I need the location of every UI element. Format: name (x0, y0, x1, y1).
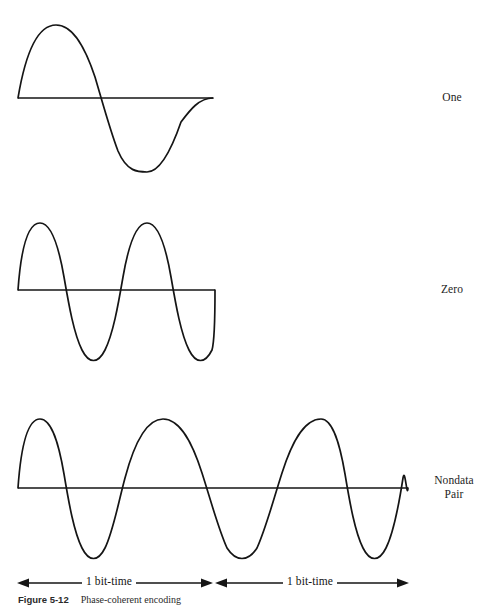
bit-time-axis (17, 579, 409, 588)
arrow-left-2 (215, 579, 227, 588)
waveform-nondata-pair (18, 419, 408, 559)
arrow-right-1 (201, 579, 213, 588)
figure-caption-number: Figure 5-12 (18, 594, 69, 605)
figure-caption-text: Phase-coherent encoding (81, 594, 181, 605)
bit-time-label-1: 1 bit-time (82, 575, 136, 587)
row-label-one: One (424, 91, 480, 105)
arrow-left-1 (17, 579, 29, 588)
wave-curve-zero (18, 223, 215, 361)
arrow-right-2 (397, 579, 409, 588)
waveform-one (18, 25, 213, 172)
waveform-canvas (0, 0, 485, 605)
bit-time-label-2: 1 bit-time (283, 575, 337, 587)
row-label-zero: Zero (424, 283, 480, 297)
row-label-nondata-pair: Nondata Pair (424, 474, 484, 501)
figure-caption: Figure 5-12Phase-coherent encoding (18, 594, 478, 605)
waveform-zero (18, 223, 215, 361)
figure-phase-coherent-encoding: One Zero Nondata Pair 1 bit-time 1 bit-t… (0, 0, 485, 605)
